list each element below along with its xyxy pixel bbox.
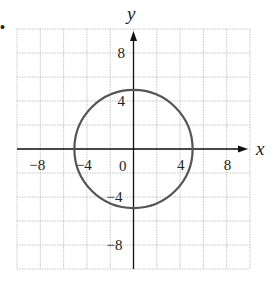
axes xyxy=(17,31,248,269)
x-tick-label: −8 xyxy=(29,157,45,173)
x-tick-label: 4 xyxy=(177,157,185,173)
x-axis-label: x xyxy=(255,138,265,159)
x-axis-arrow-icon xyxy=(238,146,248,153)
y-tick-label: 4 xyxy=(118,93,126,109)
y-axis-arrow-icon xyxy=(130,31,137,41)
y-axis-label: y xyxy=(125,3,136,24)
y-tick-label: −8 xyxy=(107,237,123,253)
circle-graph: • −8−44884−4−8 x y 0 xyxy=(0,0,271,287)
x-tick-label: 8 xyxy=(224,157,232,173)
origin-label: 0 xyxy=(119,158,127,174)
y-tick-label: 8 xyxy=(118,45,126,61)
y-tick-label: −4 xyxy=(107,189,123,205)
bullet-marker: • xyxy=(0,19,5,35)
x-tick-label: −4 xyxy=(76,157,92,173)
